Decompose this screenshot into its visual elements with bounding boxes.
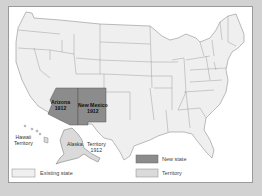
- arizona-label: Arizona 1912: [51, 99, 70, 111]
- new-mexico-label: New Mexico 1912: [78, 102, 108, 114]
- alaska-territory-label: Territory 1912: [87, 141, 106, 153]
- legend-swatch-territory: [136, 169, 158, 177]
- arizona-year: 1912: [51, 105, 70, 111]
- legend-existing-state-label: Existing state: [40, 170, 73, 176]
- legend-territory-label: Territory: [162, 170, 182, 176]
- alaska-name-label: Alaska: [67, 141, 83, 147]
- existing-states-region: [16, 12, 244, 160]
- us-map: [0, 0, 262, 196]
- legend-new-state-label: New state: [162, 156, 186, 162]
- legend-swatch-new-state: [136, 155, 158, 163]
- alaska-year: 1912: [87, 147, 106, 153]
- new-mexico-year: 1912: [78, 108, 108, 114]
- hawaii-label: Hawaii Territory: [14, 134, 33, 146]
- legend-swatch-existing-state: [12, 169, 35, 177]
- hawaii-status: Territory: [14, 140, 33, 146]
